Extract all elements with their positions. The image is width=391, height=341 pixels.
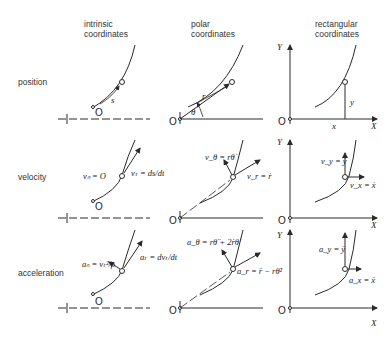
label-origin-intrinsic-2: O [95,201,103,212]
label-vn: vₙ = O [83,171,106,181]
label-atheta: a_θ = rθ̈ + 2ṙθ̇ [187,237,239,247]
label-origin-polar-1: O [169,116,177,127]
label-ay: a_y = ÿ [319,244,345,254]
label-ar: a_r = r̈ − rθ̇² [237,266,282,276]
label-origin-polar-2: O [169,215,177,226]
kinematics-diagram [0,0,391,341]
label-Y-3: Y [277,230,282,240]
label-at: aₜ = dvₜ/dt [140,252,177,262]
label-an: aₙ = vₜ²/ρ [82,259,115,269]
path-curve [200,140,243,203]
label-vt: vₜ = ds/dt [131,168,164,178]
label-origin-rect-1: O [278,116,286,127]
label-r: r [202,91,206,101]
label-X-3: X [371,318,377,328]
label-Y-1: Y [277,42,282,52]
label-s: s [111,95,115,105]
label-x: x [332,121,336,131]
label-origin-rect-2: O [278,215,286,226]
label-vy: v_y = ẏ [321,156,347,166]
label-X-1: X [371,121,377,131]
label-ax: a_x = ẍ [349,275,375,285]
label-vr: v_r = ṙ [247,171,272,181]
label-origin-rect-3: O [278,305,286,316]
label-Y-2: Y [277,137,282,147]
path-curve [315,230,356,295]
label-theta: θ [191,107,195,117]
label-vtheta: v_θ = rθ̇ [205,152,235,162]
path-curve [315,140,356,202]
path-curve [188,45,243,107]
label-y: y [350,97,354,107]
label-origin-intrinsic-1: O [95,107,103,118]
label-origin-polar-3: O [169,305,177,316]
label-vx: v_x = ẋ [350,180,376,190]
label-X-2: X [371,220,377,230]
label-origin-intrinsic-3: O [95,296,103,307]
